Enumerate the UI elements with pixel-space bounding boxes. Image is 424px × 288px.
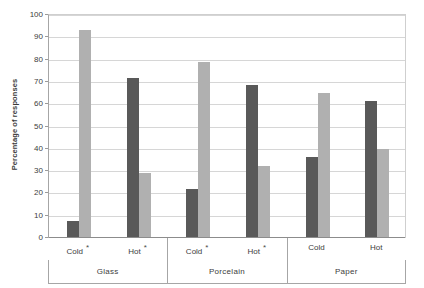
gridline [49,193,405,194]
bar [246,85,258,237]
y-tick-label: 70 [34,76,43,85]
significance-marker: * [205,243,208,252]
bar-chart: Percentage of responses 1009080706050403… [0,0,424,288]
group-labels-row: GlassPorcelainPaper [48,260,406,284]
y-tick-label: 50 [34,121,43,130]
y-tick-label: 90 [34,32,43,41]
plot-area [48,14,406,238]
category-axis: Cold*Hot*Cold*Hot*ColdHot GlassPorcelain… [48,238,406,284]
significance-marker: * [86,243,89,252]
group-separator [287,238,288,284]
axis-edge-bottom [48,283,406,284]
category-labels-row: Cold*Hot*Cold*Hot*ColdHot [48,238,406,260]
group-separator [167,238,168,284]
group-label: Glass [97,267,119,276]
y-tick-label: 60 [34,99,43,108]
bar [377,149,389,237]
y-tick-label: 0 [39,233,43,242]
bar [139,173,151,237]
significance-marker: * [144,243,147,252]
y-axis-title-text: Percentage of responses [11,78,20,170]
gridline [49,37,405,38]
group-label: Paper [335,267,358,276]
bar [79,30,91,237]
category-label: Hot* [248,243,267,256]
gridline [49,104,405,105]
y-tick-label: 100 [30,10,43,19]
bar [318,93,330,237]
y-tick-label: 30 [34,166,43,175]
bar [67,221,79,237]
gridline [49,216,405,217]
significance-marker: * [263,243,266,252]
bar [258,166,270,237]
y-tick-label: 40 [34,143,43,152]
category-label: Cold [308,243,324,252]
bar [365,101,377,237]
gridline [49,15,405,16]
gridline [49,171,405,172]
group-label: Porcelain [209,267,245,276]
bar [306,157,318,237]
gridline [49,127,405,128]
category-label: Hot* [128,243,147,256]
y-tick-label: 10 [34,210,43,219]
gridline [49,149,405,150]
category-label: Cold* [186,243,209,256]
y-axis-ticks: 1009080706050403020100 [22,14,46,238]
axis-edge-right [405,260,406,284]
gridline [49,82,405,83]
axis-edge-left [48,260,49,284]
y-tick-label: 80 [34,54,43,63]
bar [127,78,139,237]
bar [198,62,210,237]
gridline [49,60,405,61]
bar [186,189,198,237]
category-label: Hot [370,243,382,252]
y-tick-label: 20 [34,188,43,197]
category-label: Cold* [67,243,90,256]
